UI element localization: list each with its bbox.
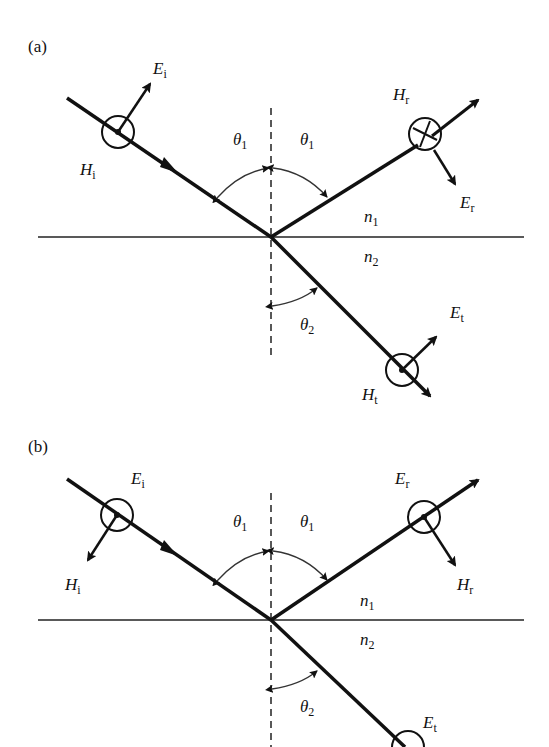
label-e-r: Er bbox=[459, 193, 474, 215]
reflected-ray bbox=[271, 480, 478, 620]
e-r-arrow bbox=[434, 150, 455, 184]
theta2-arc bbox=[272, 671, 317, 689]
label-h-r: Hr bbox=[456, 575, 473, 597]
incident-direction-arrow-icon bbox=[160, 540, 178, 556]
theta1-right-arc bbox=[273, 551, 327, 580]
incident-direction-arrow-icon bbox=[160, 157, 178, 173]
reflected-ray-arrow bbox=[432, 100, 478, 136]
panel-b-label: (b) bbox=[28, 437, 48, 456]
reflection-refraction-diagram: (a) Ei Hi Hr Er θ1 θ1 n1 n2 bbox=[0, 0, 549, 747]
theta2-arc bbox=[272, 288, 317, 306]
panel-a: (a) Ei Hi Hr Er θ1 θ1 n1 n2 bbox=[28, 37, 524, 407]
h-r-arrow bbox=[424, 517, 455, 565]
panel-b: (b) Ei Hi Er Hr θ1 θ1 n1 n2 Et θ2 bbox=[28, 437, 524, 747]
label-n1: n1 bbox=[364, 207, 379, 229]
label-h-i: Hi bbox=[79, 160, 96, 182]
transmitted-ray bbox=[271, 237, 430, 396]
label-theta1-right: θ1 bbox=[300, 130, 314, 152]
e-i-arrow bbox=[118, 84, 150, 132]
label-theta2: θ2 bbox=[300, 315, 314, 337]
cross-line-icon bbox=[420, 121, 430, 147]
transmitted-ray bbox=[271, 620, 405, 747]
label-e-t: Et bbox=[422, 713, 437, 735]
label-theta1-left: θ1 bbox=[233, 130, 247, 152]
label-e-i: Ei bbox=[130, 469, 145, 491]
label-h-r: Hr bbox=[392, 85, 409, 107]
label-theta1-left: θ1 bbox=[233, 512, 247, 534]
label-n2: n2 bbox=[364, 247, 379, 269]
label-theta2: θ2 bbox=[300, 697, 314, 719]
theta1-left-arc bbox=[217, 551, 269, 581]
panel-a-label: (a) bbox=[28, 37, 47, 56]
label-h-t: Ht bbox=[361, 385, 378, 407]
theta1-left-arc bbox=[217, 168, 269, 198]
reflected-ray bbox=[271, 145, 418, 237]
label-theta1-right: θ1 bbox=[300, 512, 314, 534]
label-n2: n2 bbox=[360, 630, 375, 652]
label-e-t: Et bbox=[449, 303, 464, 325]
label-e-i: Ei bbox=[152, 59, 167, 81]
theta1-right-arc bbox=[273, 168, 327, 197]
label-n1: n1 bbox=[360, 591, 375, 613]
label-e-r: Er bbox=[394, 469, 409, 491]
label-h-i: Hi bbox=[64, 575, 81, 597]
e-t-arrow bbox=[402, 337, 436, 370]
